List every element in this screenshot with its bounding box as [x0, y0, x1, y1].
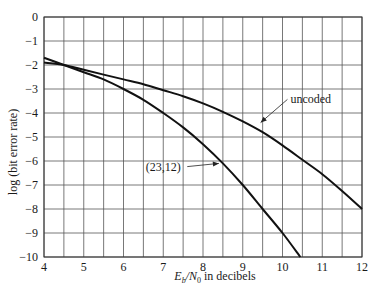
y-tick-label: −10 [19, 250, 38, 264]
x-axis-label: Eb/N0 in decibels [173, 269, 256, 285]
x-tick-label: 12 [356, 260, 368, 274]
series-23-12-line [44, 58, 300, 257]
grid-lines [44, 17, 362, 257]
y-tick-label: −7 [25, 178, 38, 192]
y-tick-label: −2 [25, 58, 38, 72]
ber-chart: 0−1−2−3−4−5−6−7−8−9−10 456789101112 unco… [0, 0, 372, 301]
annotation-label: (23,12) [146, 160, 181, 174]
x-tick-label: 7 [160, 260, 166, 274]
y-axis-label: log (bit error rate) [6, 109, 20, 195]
y-tick-label: −1 [25, 34, 38, 48]
x-tick-label: 10 [277, 260, 289, 274]
x-tick-label: 5 [81, 260, 87, 274]
y-tick-label: −6 [25, 154, 38, 168]
arrowhead-icon [213, 162, 219, 167]
y-tick-label: −9 [25, 226, 38, 240]
y-tick-label: −8 [25, 202, 38, 216]
y-tick-label: −5 [25, 130, 38, 144]
y-tick-label: −3 [25, 82, 38, 96]
annotation-label: uncoded [290, 92, 331, 106]
x-tick-label: 11 [316, 260, 328, 274]
y-tick-labels: 0−1−2−3−4−5−6−7−8−9−10 [19, 10, 38, 264]
x-tick-label: 6 [121, 260, 127, 274]
y-tick-label: −4 [25, 106, 38, 120]
y-tick-label: 0 [32, 10, 38, 24]
x-tick-label: 4 [41, 260, 47, 274]
